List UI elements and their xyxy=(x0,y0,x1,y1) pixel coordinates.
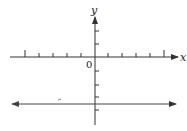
y-ticks xyxy=(95,31,99,110)
x-axis-label: x xyxy=(180,51,187,64)
y-axis-label: y xyxy=(90,4,98,17)
coordinate-plane: y x 0 xyxy=(0,0,187,131)
stray-mark xyxy=(58,99,61,100)
origin-label: 0 xyxy=(86,59,92,70)
